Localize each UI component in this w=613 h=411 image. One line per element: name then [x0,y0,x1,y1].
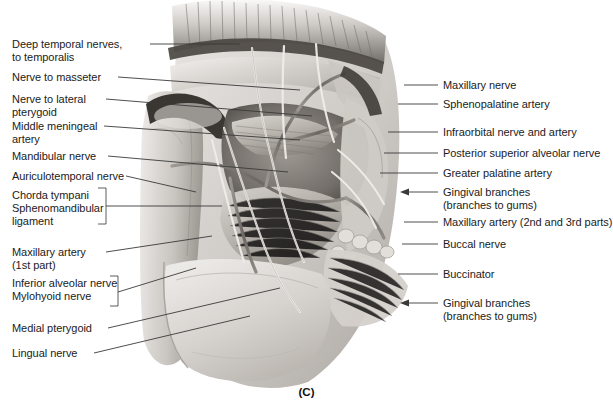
label-line: Sphenopalatine artery [443,98,550,110]
label-middle-meningeal-artery: Middle meningealartery [12,120,97,146]
label-inferior-alveolar-mylohyoid-group: Inferior alveolar nerveMylohyoid nerve [12,277,117,303]
label-line: Mylohyoid nerve [12,290,91,302]
label-line: Nerve to lateral [12,93,86,105]
label-auriculotemporal-nerve: Auriculotemporal nerve [12,170,124,183]
label-nerve-to-lateral-pterygoid: Nerve to lateralpterygoid [12,93,86,119]
label-line: (1st part) [12,259,56,271]
label-line: Chorda tympani [12,189,89,201]
label-line: Auriculotemporal nerve [12,170,124,182]
label-line: Sphenomandibular [12,202,104,214]
label-maxillary-artery-2nd-3rd-parts: Maxillary artery (2nd and 3rd parts) [443,216,612,229]
label-nerve-to-masseter: Nerve to masseter [12,71,101,84]
label-line: (branches to gums) [443,310,537,322]
label-mandibular-nerve: Mandibular nerve [12,150,96,163]
label-lingual-nerve: Lingual nerve [12,347,77,360]
label-line: Deep temporal nerves, [12,38,122,50]
label-buccal-nerve: Buccal nerve [443,238,506,251]
label-line: Inferior alveolar nerve [12,277,117,289]
label-line: pterygoid [12,106,57,118]
label-line: to temporalis [12,51,74,63]
label-gingival-branches-lower: Gingival branches(branches to gums) [443,297,537,323]
label-line: Infraorbital nerve and artery [443,126,577,138]
label-line: Mandibular nerve [12,150,96,162]
label-chorda-tympani-group: Chorda tympaniSphenomandibularligament [12,189,104,229]
label-sphenopalatine-artery: Sphenopalatine artery [443,98,550,111]
label-line: Greater palatine artery [443,167,552,179]
label-line: Maxillary artery [12,246,86,258]
infratemporal-fossa-illustration [132,0,412,392]
label-maxillary-nerve: Maxillary nerve [443,79,516,92]
label-line: Gingival branches [443,186,530,198]
label-posterior-superior-alveolar-nerve: Posterior superior alveolar nerve [443,147,600,160]
label-line: Buccinator [443,268,494,280]
label-infraorbital-nerve-and-artery: Infraorbital nerve and artery [443,126,577,139]
label-greater-palatine-artery: Greater palatine artery [443,167,552,180]
label-line: Buccal nerve [443,238,506,250]
label-deep-temporal-nerves: Deep temporal nerves,to temporalis [12,38,122,64]
label-line: Medial pterygoid [12,322,92,334]
figure-caption: (C) [0,386,613,398]
label-line: artery [12,133,40,145]
label-buccinator: Buccinator [443,268,494,281]
anatomy-figure: Deep temporal nerves,to temporalis Nerve… [0,0,613,411]
label-line: Nerve to masseter [12,71,101,83]
label-line: (branches to gums) [443,199,537,211]
label-line: Maxillary artery (2nd and 3rd parts) [443,216,612,228]
label-line: Middle meningeal [12,120,97,132]
label-line: Lingual nerve [12,347,77,359]
mandible-body [165,259,331,381]
label-line: Maxillary nerve [443,79,516,91]
label-line: Posterior superior alveolar nerve [443,147,600,159]
label-line: ligament [12,215,53,227]
label-medial-pterygoid: Medial pterygoid [12,322,92,335]
label-maxillary-artery-first-part: Maxillary artery(1st part) [12,246,86,272]
label-gingival-branches-upper: Gingival branches(branches to gums) [443,186,537,212]
label-line: Gingival branches [443,297,530,309]
buccinator-muscle [324,250,408,327]
